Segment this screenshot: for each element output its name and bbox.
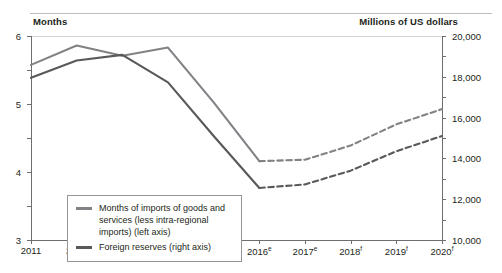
left-tick-label-5: 5 bbox=[16, 99, 21, 110]
plot-area: 0123456 02,0004,0006,0008,00010,00012,00… bbox=[31, 36, 443, 241]
series-line-solid-1 bbox=[31, 55, 259, 188]
legend-swatch-reserves bbox=[76, 246, 92, 249]
legend-swatch-months bbox=[76, 207, 92, 210]
chart-figure: Months Millions of US dollars 0123456 02… bbox=[0, 0, 502, 273]
left-tick-label-3: 3 bbox=[16, 235, 21, 246]
x-tick-label-2020: 2020f bbox=[431, 245, 454, 257]
left-axis-unit-caption: Months bbox=[33, 16, 67, 27]
x-tick-label-2017: 2017e bbox=[293, 245, 318, 257]
left-tick-label-6: 6 bbox=[16, 31, 21, 42]
right-tick-label-10000: 10,000 bbox=[452, 235, 481, 246]
right-tick-label-12000: 12,000 bbox=[452, 194, 481, 205]
left-tick-label-4: 4 bbox=[16, 167, 21, 178]
x-tick-marker-2018: f bbox=[360, 245, 362, 252]
x-tick-marker-2019: f bbox=[406, 245, 408, 252]
right-tick-label-20000: 20,000 bbox=[452, 31, 481, 42]
x-tick-label-2019: 2019f bbox=[385, 245, 408, 257]
series-line-dashed-0 bbox=[259, 109, 442, 161]
x-tick-marker-2017: e bbox=[314, 245, 318, 252]
right-tick-label-18000: 18,000 bbox=[452, 71, 481, 82]
x-tick-marker-2016: e bbox=[268, 245, 272, 252]
x-tick-label-2018: 2018f bbox=[339, 245, 362, 257]
legend-item-reserves: Foreign reserves (right axis) bbox=[76, 241, 211, 253]
right-axis-unit-caption: Millions of US dollars bbox=[359, 16, 458, 27]
legend-label-reserves: Foreign reserves (right axis) bbox=[99, 241, 211, 253]
right-tick-label-14000: 14,000 bbox=[452, 153, 481, 164]
right-tick-label-16000: 16,000 bbox=[452, 112, 481, 123]
series-line-dashed-1 bbox=[259, 136, 442, 188]
legend-item-months: Months of imports of goods and services … bbox=[76, 202, 239, 239]
series-line-solid-0 bbox=[31, 46, 259, 162]
x-tick-label-2016: 2016e bbox=[247, 245, 272, 257]
top-rule bbox=[30, 13, 492, 14]
x-tick-marker-2020: f bbox=[452, 245, 454, 252]
chart-legend: Months of imports of goods and services … bbox=[67, 195, 242, 262]
x-tick-label-2011: 2011 bbox=[21, 245, 41, 256]
legend-label-months: Months of imports of goods and services … bbox=[99, 202, 239, 239]
